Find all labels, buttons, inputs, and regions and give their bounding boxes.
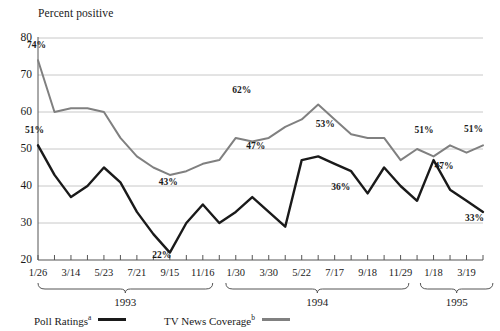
data-point-label: 74% — [27, 41, 46, 51]
x-axis-ticks — [38, 255, 483, 260]
legend-footnote-marker: a — [88, 313, 91, 322]
legend-color-swatch — [262, 318, 290, 321]
data-point-label: 62% — [232, 86, 251, 96]
legend-item: Poll Ratingsa — [34, 313, 126, 327]
data-point-label: 22% — [152, 251, 171, 261]
chart-legend: Poll RatingsaTV News Coverageb — [34, 313, 474, 329]
y-tick-label-30: 30 — [8, 217, 32, 229]
year-group-label: 1995 — [432, 297, 482, 308]
y-tick-label-70: 70 — [8, 69, 32, 81]
data-point-label: 51% — [415, 126, 434, 136]
year-group-label: 1993 — [100, 297, 150, 308]
data-point-label: 33% — [465, 214, 484, 224]
y-tick-label-20: 20 — [8, 254, 32, 266]
plot-area — [0, 0, 500, 331]
legend-item-label: TV News Coverageb — [164, 313, 255, 327]
data-point-label: 47% — [435, 162, 454, 172]
data-point-label: 47% — [246, 142, 265, 152]
y-tick-label-60: 60 — [8, 106, 32, 118]
data-point-label: 36% — [331, 183, 350, 193]
legend-item: TV News Coverageb — [164, 313, 290, 327]
data-point-label: 53% — [316, 120, 335, 130]
y-tick-label-40: 40 — [8, 180, 32, 192]
data-point-label: 51% — [464, 125, 483, 135]
data-series — [38, 60, 483, 252]
x-tick-label: 3/19 — [447, 268, 487, 279]
year-brackets — [38, 283, 493, 293]
legend-item-label: Poll Ratingsa — [34, 313, 91, 327]
y-tick-label-50: 50 — [8, 143, 32, 155]
year-group-label: 1994 — [292, 297, 342, 308]
chart-figure: Percent positive 80706050403020 1/263/14… — [0, 0, 500, 331]
data-point-label: 43% — [159, 178, 178, 188]
legend-color-swatch — [98, 318, 126, 321]
data-point-label: 51% — [25, 126, 44, 136]
legend-footnote-marker: b — [251, 313, 255, 322]
